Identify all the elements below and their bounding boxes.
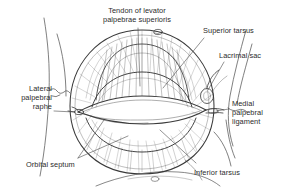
- label-tendon-of-levator-palpebrae-superioris: Tendon of levator palpebrae superioris: [78, 6, 196, 24]
- leader-orbital-septum-fork: [78, 120, 128, 158]
- label-medial-palpebral-ligament: Medial palpebral ligament: [232, 99, 284, 127]
- anatomical-illustration: Tendon of levator palpebrae superioris S…: [0, 0, 285, 195]
- leader-superior-tarsus: [163, 38, 204, 88]
- leader-lacrimal-sac: [208, 62, 224, 90]
- label-superior-tarsus: Superior tarsus: [203, 26, 281, 35]
- label-inferior-tarsus: Inferior tarsus: [194, 168, 274, 177]
- label-lacrimal-sac: Lacrimal sac: [219, 51, 283, 60]
- label-orbital-septum: Orbital septum: [26, 160, 106, 169]
- fissure-inner-lines: [82, 100, 202, 123]
- label-lateral-palpebral-raphe: Lateral palpebral raphe: [2, 84, 52, 112]
- leader-tendon-levator: [138, 28, 140, 86]
- levator-aponeurosis-fibers: [99, 38, 186, 101]
